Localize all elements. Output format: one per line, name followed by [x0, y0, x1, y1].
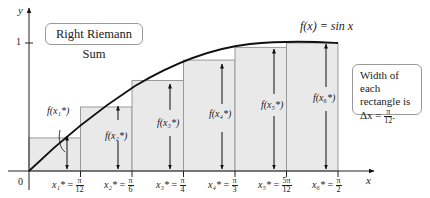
f-label-2: f(x₂*)	[105, 130, 127, 141]
info-line-1: Width of each	[360, 69, 421, 95]
title-box: Right Riemann Sum	[45, 23, 143, 45]
function-label: f(x) = sin x	[300, 19, 353, 34]
x-axis-label: x	[366, 174, 371, 186]
info-line-2: rectangle is	[360, 95, 421, 108]
info-line-3: Δx = π12.	[360, 108, 421, 125]
x-label-5: x₅* = 5π12	[258, 177, 292, 194]
info-box: Width of each rectangle is Δx = π12.	[352, 64, 422, 115]
x-label-6: x₆* = π2	[312, 177, 342, 194]
f-label-4: f(x₄*)	[209, 108, 231, 119]
f-label-3: f(x₃*)	[157, 117, 179, 128]
f-label-5: f(x₅*)	[261, 99, 283, 110]
rectangle-1	[29, 138, 81, 171]
y-tick-label: 1	[16, 36, 21, 47]
y-axis-label: y	[18, 4, 23, 16]
origin-label: 0	[18, 176, 23, 187]
rectangle-6	[287, 43, 339, 171]
f-label-6: f(x₆*)	[313, 92, 335, 103]
x-label-1: x₁* = π12	[52, 177, 84, 194]
x-label-3: x₃* = π4	[156, 177, 186, 194]
x-label-2: x₂* = π6	[104, 177, 134, 194]
x-label-4: x₄* = π3	[208, 177, 238, 194]
f-label-1: f(x₁*)	[47, 105, 69, 116]
